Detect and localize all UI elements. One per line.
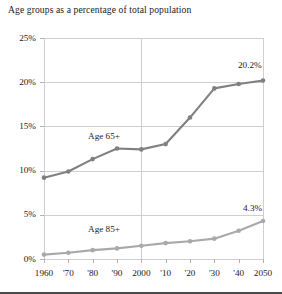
- x-tick-mark: [166, 259, 167, 263]
- data-point-marker: [212, 236, 217, 241]
- series-line-age-85-plus: [44, 221, 263, 255]
- data-point-marker: [42, 252, 47, 257]
- x-tick-mark: [141, 259, 142, 263]
- data-point-marker: [66, 169, 71, 174]
- endpoint-label-age-65-plus: 20.2%: [238, 60, 262, 70]
- data-point-marker: [66, 251, 71, 256]
- data-point-marker: [163, 142, 168, 147]
- data-point-marker: [236, 82, 241, 87]
- data-point-marker: [42, 175, 47, 180]
- x-tick-mark: [117, 259, 118, 263]
- x-tick-mark: [93, 259, 94, 263]
- data-point-marker: [139, 243, 144, 248]
- data-point-marker: [139, 147, 144, 152]
- data-point-marker: [163, 241, 168, 246]
- data-point-marker: [188, 239, 193, 244]
- x-tick-mark: [263, 259, 264, 263]
- x-tick-mark: [214, 259, 215, 263]
- data-point-marker: [115, 146, 120, 151]
- series-lines-layer: [0, 0, 282, 294]
- data-point-marker: [236, 228, 241, 233]
- x-tick-mark: [68, 259, 69, 263]
- x-tick-mark: [239, 259, 240, 263]
- endpoint-label-age-85-plus: 4.3%: [243, 203, 262, 213]
- chart-figure: Age groups as a percentage of total popu…: [0, 0, 282, 294]
- x-tick-mark: [190, 259, 191, 263]
- data-point-marker: [115, 246, 120, 251]
- data-point-marker: [212, 86, 217, 91]
- data-point-marker: [188, 115, 193, 120]
- x-tick-mark: [44, 259, 45, 263]
- series-line-age-65-plus: [44, 80, 263, 177]
- data-point-marker: [90, 157, 95, 162]
- series-label-age-85-plus: Age 85+: [88, 224, 120, 234]
- data-point-marker: [90, 248, 95, 253]
- series-label-age-65-plus: Age 65+: [88, 131, 120, 141]
- data-point-marker: [261, 78, 266, 83]
- data-point-marker: [261, 219, 266, 224]
